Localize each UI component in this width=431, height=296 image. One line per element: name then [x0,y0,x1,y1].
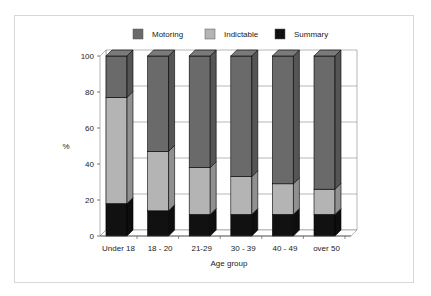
legend-label-motoring: Motoring [152,30,183,39]
stacked-bar-chart: 020406080100%Under 1818 - 2021-2930 - 39… [0,0,431,296]
bar-segment-motoring [231,56,252,177]
bar-segment-summary [272,214,293,236]
x-tick-label: 18 - 20 [148,244,173,253]
y-tick-label: 100 [81,52,95,61]
y-tick-label: 20 [85,196,94,205]
bars: Under 1818 - 2021-2930 - 3940 - 49over 5… [102,50,345,253]
legend-swatch-summary [275,29,285,39]
bar-18-20: 18 - 20 [148,50,179,253]
bar-40-49: 40 - 49 [272,50,303,253]
bar-segment-indictable [106,97,127,203]
bar-segment-motoring [314,56,335,189]
legend-swatch-motoring [133,29,143,39]
bar-segment-motoring [106,56,127,97]
bar-segment-motoring [272,56,293,184]
x-axis-title: Age group [211,259,248,268]
y-tick-label: 80 [85,88,94,97]
bar-segment-indictable [148,151,169,210]
bar-over50: over 50 [313,50,345,253]
bar-segment-summary [231,214,252,236]
legend-label-indictable: Indictable [224,30,259,39]
legend-label-summary: Summary [294,30,328,39]
legend-swatch-indictable [205,29,215,39]
bar-segment-indictable [272,184,293,215]
legend: MotoringIndictableSummary [133,29,328,39]
y-tick-label: 60 [85,124,94,133]
bar-segment-summary [314,214,335,236]
bar-21-29: 21-29 [189,50,220,253]
bar-segment-motoring [148,56,169,151]
x-tick-label: 21-29 [191,244,212,253]
bar-segment-summary [106,204,127,236]
x-tick-label: Under 18 [102,244,135,253]
y-tick-label: 0 [90,232,95,241]
bar-segment-summary [148,211,169,236]
bar-30-39: 30 - 39 [231,50,262,253]
y-tick-label: 40 [85,160,94,169]
x-tick-label: 40 - 49 [272,244,297,253]
y-axis: 020406080100% [62,52,100,241]
y-axis-title: % [62,142,69,151]
x-tick-label: 30 - 39 [231,244,256,253]
bar-under18: Under 18 [102,50,137,253]
bar-segment-indictable [231,177,252,215]
bar-segment-summary [189,214,210,236]
bar-segment-indictable [189,168,210,215]
bar-segment-indictable [314,189,335,214]
x-tick-label: over 50 [313,244,340,253]
bar-segment-motoring [189,56,210,168]
